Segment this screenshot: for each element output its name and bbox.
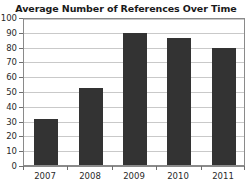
- x-axis-tick-label: 2010: [167, 171, 189, 182]
- x-axis-tick: [156, 166, 157, 170]
- x-axis-tick: [67, 166, 68, 170]
- x-axis-tick-label: 2008: [79, 171, 101, 182]
- y-axis-tick-label: 20: [6, 132, 17, 141]
- x-axis-tick-marks: [23, 166, 245, 170]
- y-axis-tick-label: 60: [6, 73, 17, 82]
- x-axis-tick: [244, 166, 245, 170]
- bar: [79, 88, 103, 165]
- y-axis-tick-label: 90: [6, 29, 17, 38]
- bar: [123, 33, 147, 165]
- y-axis-tick-label: 50: [6, 88, 17, 97]
- x-axis-tick: [23, 166, 24, 170]
- chart-title: Average Number of References Over Time: [0, 2, 252, 15]
- x-axis-tick: [201, 166, 202, 170]
- y-axis-tick-label: 0: [12, 162, 17, 171]
- x-axis-tick: [112, 166, 113, 170]
- bar-chart-figure: Average Number of References Over Time 0…: [0, 0, 252, 192]
- plot-area: [23, 18, 245, 166]
- bar: [34, 119, 58, 165]
- x-axis-tick-label: 2007: [34, 171, 56, 182]
- x-axis-tick-label: 2009: [123, 171, 145, 182]
- y-axis-tick-label: 70: [6, 58, 17, 67]
- bars-layer: [24, 19, 244, 165]
- y-axis-tick-label: 100: [1, 14, 17, 23]
- x-axis-tick-label: 2011: [212, 171, 234, 182]
- y-axis-tick-label: 40: [6, 103, 17, 112]
- bar: [212, 48, 236, 165]
- x-axis-tick-labels: 20072008200920102011: [23, 171, 245, 185]
- y-axis-tick-label: 80: [6, 44, 17, 53]
- y-axis-tick-label: 10: [6, 147, 17, 156]
- bar: [167, 38, 191, 165]
- y-axis-tick-label: 30: [6, 118, 17, 127]
